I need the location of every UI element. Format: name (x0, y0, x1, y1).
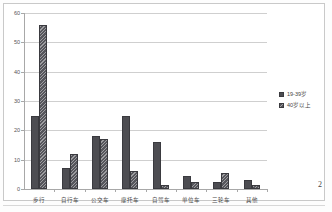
footer-rule (3, 205, 325, 206)
legend-item: 40岁以上 (279, 101, 311, 109)
y-tick-label: 0 (17, 186, 20, 192)
bar-group (237, 180, 267, 189)
x-category-label: 自行车 (61, 196, 79, 204)
chart-legend: 19-39岁 40岁以上 (279, 90, 311, 109)
legend-item-label: 19-39岁 (287, 90, 307, 98)
y-tick-mark (21, 189, 24, 190)
bar-group (176, 176, 206, 189)
x-tick-mark (237, 189, 238, 192)
legend-item-label: 40岁以上 (287, 101, 311, 109)
y-tick-label: 60 (14, 10, 20, 16)
x-tick-mark (54, 189, 55, 192)
series-a-swatch (279, 92, 284, 97)
bar-series-a (62, 168, 70, 189)
y-tick-mark (21, 13, 24, 14)
document-page: 0102030405060 步行自行车公交车摩托车自驾车单位车三轮车其他 19-… (0, 0, 332, 212)
bar-series-a (213, 182, 221, 189)
x-category-label: 单位车 (182, 196, 200, 204)
gridline (24, 42, 267, 43)
bar-series-b (100, 139, 108, 189)
bar-series-b (221, 173, 229, 189)
y-tick-label: 40 (14, 69, 20, 75)
gridline (24, 130, 267, 131)
page-number: 2 (318, 180, 322, 189)
x-tick-mark (85, 189, 86, 192)
bar-group (146, 142, 176, 189)
x-category-label: 公交车 (91, 196, 109, 204)
bar-group (54, 154, 84, 189)
gridline (24, 101, 267, 102)
y-tick-label: 20 (14, 127, 20, 133)
x-category-label: 步行 (33, 196, 45, 204)
y-tick-label: 10 (14, 157, 20, 163)
grouped-bar-chart: 0102030405060 步行自行车公交车摩托车自驾车单位车三轮车其他 19-… (4, 4, 324, 200)
bar-series-a (183, 176, 191, 189)
bar-series-b (70, 154, 78, 189)
bar-series-a (92, 136, 100, 189)
bar-series-a (244, 180, 252, 189)
x-tick-mark (115, 189, 116, 192)
gridline (24, 72, 267, 73)
plot-region: 0102030405060 步行自行车公交车摩托车自驾车单位车三轮车其他 (24, 13, 267, 189)
bar-series-b (130, 171, 138, 189)
bar-series-a (122, 116, 130, 189)
bar-series-b (39, 25, 47, 189)
y-tick-label: 50 (14, 39, 20, 45)
bar-group (115, 116, 145, 189)
x-category-label: 三轮车 (212, 196, 230, 204)
bar-series-b (191, 182, 199, 189)
x-category-label: 其他 (246, 196, 258, 204)
x-tick-mark (146, 189, 147, 192)
gridline (24, 13, 267, 14)
bar-series-b (161, 185, 169, 189)
x-tick-mark (267, 189, 268, 192)
legend-item: 19-39岁 (279, 90, 311, 98)
x-tick-mark (206, 189, 207, 192)
bar-group (206, 173, 236, 189)
bar-series-a (153, 142, 161, 189)
y-tick-label: 30 (14, 98, 20, 104)
bar-group (24, 25, 54, 189)
x-tick-mark (176, 189, 177, 192)
bar-series-a (31, 116, 39, 189)
x-category-label: 摩托车 (121, 196, 139, 204)
bar-series-b (252, 185, 260, 189)
series-b-swatch (279, 103, 284, 108)
bar-group (85, 136, 115, 189)
x-category-label: 自驾车 (152, 196, 170, 204)
